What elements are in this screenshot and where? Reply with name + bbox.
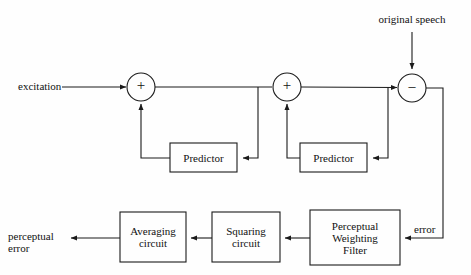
error-label: error bbox=[414, 224, 435, 236]
predictor-1-label: Predictor bbox=[170, 143, 237, 172]
excitation-label: excitation bbox=[18, 81, 61, 93]
perceptual-error-label: perceptual error bbox=[8, 231, 54, 254]
averaging-circuit-label: Averaging circuit bbox=[120, 212, 186, 262]
edge-tap2-to-predictor2 bbox=[373, 88, 388, 159]
block-diagram-figure: + + – excitation original speech error p… bbox=[0, 0, 471, 275]
edge-predictor2-to-adder2 bbox=[287, 104, 300, 158]
edge-predictor1-to-adder1 bbox=[141, 104, 170, 158]
squaring-circuit-label: Squaring circuit bbox=[212, 212, 280, 262]
predictor-2-label: Predictor bbox=[300, 143, 367, 172]
adder2-plus-sign: + bbox=[277, 78, 297, 93]
perceptual-weighting-filter-label: Perceptual Weighting Filter bbox=[310, 210, 400, 265]
edge-adder2-to-subtractor bbox=[301, 87, 397, 88]
edge-tap1-to-predictor1 bbox=[243, 87, 258, 158]
edge-subtractor-to-filter bbox=[405, 88, 443, 238]
original-speech-label: original speech bbox=[362, 14, 462, 26]
adder1-plus-sign: + bbox=[131, 78, 151, 93]
subtractor-minus-sign: – bbox=[402, 80, 422, 94]
